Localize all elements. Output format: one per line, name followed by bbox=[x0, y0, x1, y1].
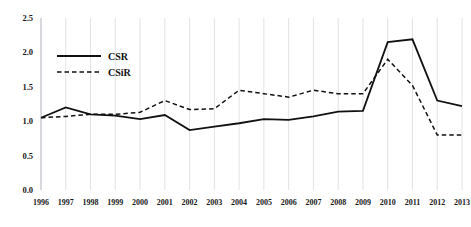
x-axis-tick-label: 2002 bbox=[182, 198, 198, 207]
x-axis-tick-label: 2000 bbox=[132, 198, 148, 207]
x-axis-tick-label: 2008 bbox=[330, 198, 346, 207]
x-axis-tick-label: 2009 bbox=[355, 198, 371, 207]
x-axis-tick-label: 2005 bbox=[256, 198, 272, 207]
x-axis-tick-label: 1998 bbox=[83, 198, 99, 207]
chart-figure: 0.00.51.01.52.02.5 199619971998199920002… bbox=[0, 0, 471, 227]
x-axis-tick-label: 2011 bbox=[405, 198, 421, 207]
y-axis-tick-label: 2.0 bbox=[22, 47, 33, 57]
x-axis-tick-label: 1999 bbox=[107, 198, 123, 207]
y-axis-tick-label: 1.0 bbox=[22, 116, 33, 126]
x-axis-tick-label: 2001 bbox=[157, 198, 173, 207]
x-axis-tick-label: 1997 bbox=[58, 198, 74, 207]
y-axis-tick-label: 1.5 bbox=[22, 82, 33, 92]
y-axis-tick-label: 0.5 bbox=[22, 151, 33, 161]
line-chart: 0.00.51.01.52.02.5 199619971998199920002… bbox=[0, 0, 471, 227]
chart-background bbox=[0, 0, 471, 227]
x-axis-tick-label: 2004 bbox=[231, 198, 247, 207]
legend-label-csr: CSR bbox=[108, 51, 129, 62]
x-axis-tick-label: 2006 bbox=[281, 198, 297, 207]
x-axis-tick-label: 2010 bbox=[380, 198, 396, 207]
x-axis-tick-label: 2013 bbox=[454, 198, 470, 207]
x-axis-tick-label: 1996 bbox=[33, 198, 49, 207]
x-axis-tick-label: 2007 bbox=[305, 198, 321, 207]
legend-label-csir: CSiR bbox=[108, 67, 132, 78]
x-axis-tick-label: 2003 bbox=[206, 198, 222, 207]
y-axis-tick-label: 0.0 bbox=[22, 185, 33, 195]
y-axis-tick-label: 2.5 bbox=[22, 13, 33, 23]
x-axis-tick-label: 2012 bbox=[429, 198, 445, 207]
